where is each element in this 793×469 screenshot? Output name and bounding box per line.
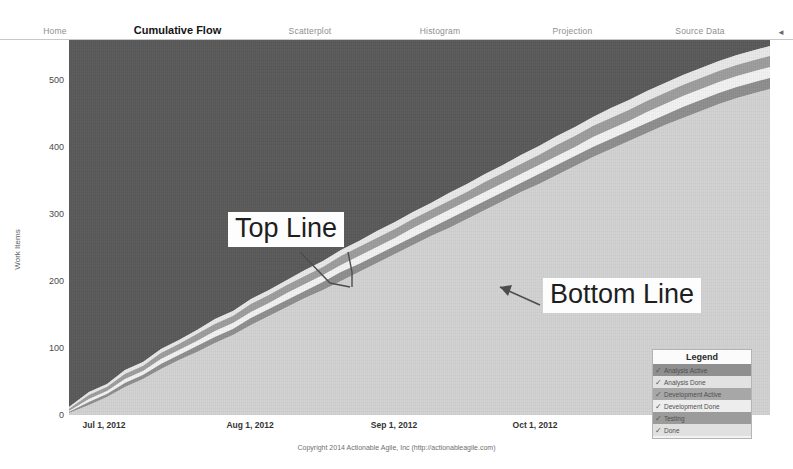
legend-checkbox-icon[interactable]: ✓: [655, 378, 664, 387]
legend-item-label: Development Done: [664, 403, 751, 410]
legend-item-development-done[interactable]: ✓ Development Done: [653, 400, 751, 412]
tab-cumulative-flow[interactable]: Cumulative Flow: [110, 24, 245, 39]
legend-item-label: Analysis Active: [664, 367, 751, 374]
x-tick-jul: Jul 1, 2012: [82, 420, 125, 430]
copyright-footer: Copyright 2014 Actionable Agile, Inc (ht…: [0, 444, 793, 451]
legend-item-done[interactable]: ✓ Done: [653, 424, 751, 436]
legend-item-development-active[interactable]: ✓ Development Active: [653, 388, 751, 400]
legend-item-label: Development Active: [664, 391, 751, 398]
y-tick-500: 500: [24, 75, 69, 85]
legend-item-testing[interactable]: ✓ Testing: [653, 412, 751, 424]
y-axis-title: Work Items: [13, 215, 22, 285]
y-tick-200: 200: [24, 276, 69, 286]
y-tick-400: 400: [24, 142, 69, 152]
legend-checkbox-icon[interactable]: ✓: [655, 366, 664, 375]
legend-checkbox-icon[interactable]: ✓: [655, 402, 664, 411]
legend-title: Legend: [653, 350, 751, 364]
tab-home[interactable]: Home: [0, 26, 110, 39]
legend-item-label: Done: [664, 427, 751, 434]
tab-bar: Home Cumulative Flow Scatterplot Histogr…: [0, 18, 793, 40]
legend: Legend ✓ Analysis Active ✓ Analysis Done…: [652, 349, 752, 439]
x-tick-oct: Oct 1, 2012: [513, 420, 558, 430]
cumulative-flow-chart: Work Items 0 100 200 300 400 500 Jul 1, …: [0, 40, 793, 469]
y-tick-300: 300: [24, 209, 69, 219]
legend-item-analysis-done[interactable]: ✓ Analysis Done: [653, 376, 751, 388]
legend-checkbox-icon[interactable]: ✓: [655, 414, 664, 423]
legend-checkbox-icon[interactable]: ✓: [655, 426, 664, 435]
tab-histogram[interactable]: Histogram: [375, 26, 505, 39]
legend-item-analysis-active[interactable]: ✓ Analysis Active: [653, 364, 751, 376]
annotation-bottom-line: Bottom Line: [543, 278, 701, 313]
tab-source-data[interactable]: Source Data: [640, 26, 760, 39]
legend-item-label: Testing: [664, 415, 751, 422]
y-tick-0: 0: [24, 410, 69, 420]
annotation-top-line: Top Line: [228, 212, 344, 247]
tab-scatterplot[interactable]: Scatterplot: [245, 26, 375, 39]
tab-scroll-left-icon[interactable]: ◄: [777, 28, 793, 39]
legend-item-label: Analysis Done: [664, 379, 751, 386]
x-tick-sep: Sep 1, 2012: [371, 420, 417, 430]
x-tick-aug: Aug 1, 2012: [226, 420, 273, 430]
y-tick-100: 100: [24, 343, 69, 353]
legend-checkbox-icon[interactable]: ✓: [655, 390, 664, 399]
tab-projection[interactable]: Projection: [505, 26, 640, 39]
